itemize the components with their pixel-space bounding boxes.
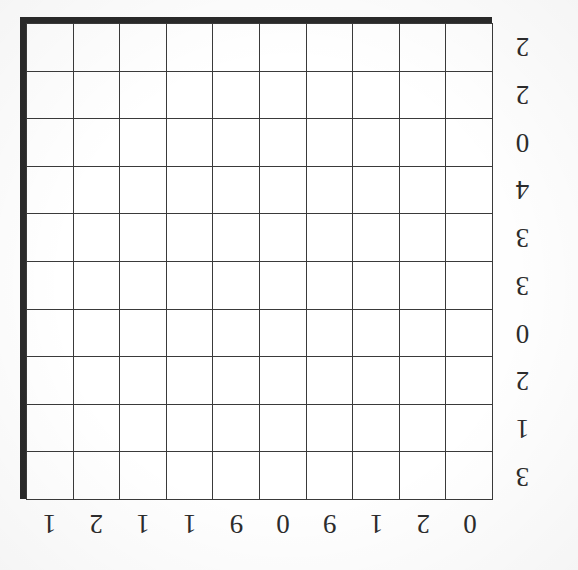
grid-cell-r4-c6[interactable] — [213, 309, 260, 357]
grid-cell-r3-c7[interactable] — [166, 357, 213, 405]
grid-cell-r8-c7[interactable] — [166, 119, 213, 167]
grid-cell-r10-c3[interactable] — [353, 24, 400, 72]
grid-cell-r6-c1[interactable] — [446, 214, 493, 262]
grid-cell-r7-c2[interactable] — [399, 166, 446, 214]
grid-cell-r2-c6[interactable] — [213, 404, 260, 452]
grid-cell-r4-c5[interactable] — [260, 309, 307, 357]
grid-cell-r6-c3[interactable] — [353, 214, 400, 262]
grid-cell-r3-c2[interactable] — [399, 357, 446, 405]
grid-cell-r9-c4[interactable] — [306, 71, 353, 119]
grid-cell-r1-c10[interactable] — [27, 452, 74, 500]
grid-cell-r7-c3[interactable] — [353, 166, 400, 214]
grid-cell-r3-c1[interactable] — [446, 357, 493, 405]
grid-cell-r5-c6[interactable] — [213, 262, 260, 310]
grid-cell-r6-c6[interactable] — [213, 214, 260, 262]
grid-cell-r10-c5[interactable] — [260, 24, 307, 72]
grid-cell-r3-c5[interactable] — [260, 357, 307, 405]
grid-cell-r3-c6[interactable] — [213, 357, 260, 405]
grid-cell-r3-c9[interactable] — [73, 357, 120, 405]
grid-cell-r4-c1[interactable] — [446, 309, 493, 357]
grid-cell-r6-c10[interactable] — [27, 214, 74, 262]
grid-cell-r9-c10[interactable] — [27, 71, 74, 119]
grid-cell-r4-c3[interactable] — [353, 309, 400, 357]
grid-cell-r9-c1[interactable] — [446, 71, 493, 119]
grid-cell-r8-c10[interactable] — [27, 119, 74, 167]
grid-cell-r1-c1[interactable] — [446, 452, 493, 500]
grid-cell-r9-c3[interactable] — [353, 71, 400, 119]
grid-cell-r5-c3[interactable] — [353, 262, 400, 310]
grid-cell-r7-c5[interactable] — [260, 166, 307, 214]
grid-cell-r5-c1[interactable] — [446, 262, 493, 310]
grid-cell-r9-c8[interactable] — [120, 71, 167, 119]
grid-cell-r5-c5[interactable] — [260, 262, 307, 310]
grid-cell-r2-c5[interactable] — [260, 404, 307, 452]
grid-cell-r8-c6[interactable] — [213, 119, 260, 167]
grid-cell-r9-c5[interactable] — [260, 71, 307, 119]
grid-cell-r8-c2[interactable] — [399, 119, 446, 167]
grid-cell-r10-c6[interactable] — [213, 24, 260, 72]
grid-cell-r4-c2[interactable] — [399, 309, 446, 357]
grid-cell-r3-c3[interactable] — [353, 357, 400, 405]
grid-cell-r1-c3[interactable] — [353, 452, 400, 500]
grid-cell-r10-c2[interactable] — [399, 24, 446, 72]
grid-cell-r2-c10[interactable] — [27, 404, 74, 452]
grid-cell-r4-c10[interactable] — [27, 309, 74, 357]
grid-cell-r3-c10[interactable] — [27, 357, 74, 405]
grid-cell-r10-c7[interactable] — [166, 24, 213, 72]
grid-cell-r4-c7[interactable] — [166, 309, 213, 357]
grid-cell-r6-c8[interactable] — [120, 214, 167, 262]
grid-cell-r10-c1[interactable] — [446, 24, 493, 72]
grid-cell-r8-c8[interactable] — [120, 119, 167, 167]
grid-cell-r2-c7[interactable] — [166, 404, 213, 452]
grid-cell-r2-c1[interactable] — [446, 404, 493, 452]
grid-cell-r1-c9[interactable] — [73, 452, 120, 500]
grid-cell-r5-c9[interactable] — [73, 262, 120, 310]
grid-cell-r2-c3[interactable] — [353, 404, 400, 452]
grid-cell-r10-c8[interactable] — [120, 24, 167, 72]
grid-cell-r7-c10[interactable] — [27, 166, 74, 214]
grid-cell-r10-c9[interactable] — [73, 24, 120, 72]
puzzle-grid[interactable] — [26, 23, 493, 500]
grid-cell-r10-c4[interactable] — [306, 24, 353, 72]
grid-cell-r10-c10[interactable] — [27, 24, 74, 72]
grid-cell-r1-c6[interactable] — [213, 452, 260, 500]
grid-cell-r6-c5[interactable] — [260, 214, 307, 262]
grid-cell-r6-c9[interactable] — [73, 214, 120, 262]
grid-cell-r1-c8[interactable] — [120, 452, 167, 500]
grid-cell-r7-c1[interactable] — [446, 166, 493, 214]
grid-cell-r8-c4[interactable] — [306, 119, 353, 167]
grid-cell-r9-c7[interactable] — [166, 71, 213, 119]
grid-cell-r5-c10[interactable] — [27, 262, 74, 310]
grid-cell-r2-c2[interactable] — [399, 404, 446, 452]
grid-cell-r8-c5[interactable] — [260, 119, 307, 167]
grid-cell-r7-c6[interactable] — [213, 166, 260, 214]
grid-cell-r6-c2[interactable] — [399, 214, 446, 262]
grid-cell-r8-c1[interactable] — [446, 119, 493, 167]
grid-cell-r3-c8[interactable] — [120, 357, 167, 405]
grid-cell-r1-c2[interactable] — [399, 452, 446, 500]
grid-cell-r2-c9[interactable] — [73, 404, 120, 452]
grid-cell-r4-c9[interactable] — [73, 309, 120, 357]
grid-cell-r6-c4[interactable] — [306, 214, 353, 262]
grid-cell-r5-c4[interactable] — [306, 262, 353, 310]
grid-cell-r8-c3[interactable] — [353, 119, 400, 167]
grid-cell-r3-c4[interactable] — [306, 357, 353, 405]
grid-cell-r7-c9[interactable] — [73, 166, 120, 214]
grid-cell-r9-c6[interactable] — [213, 71, 260, 119]
grid-cell-r9-c2[interactable] — [399, 71, 446, 119]
grid-cell-r7-c8[interactable] — [120, 166, 167, 214]
grid-cell-r1-c5[interactable] — [260, 452, 307, 500]
grid-cell-r5-c8[interactable] — [120, 262, 167, 310]
grid-cell-r4-c8[interactable] — [120, 309, 167, 357]
grid-cell-r6-c7[interactable] — [166, 214, 213, 262]
grid-cell-r7-c4[interactable] — [306, 166, 353, 214]
grid-cell-r8-c9[interactable] — [73, 119, 120, 167]
grid-cell-r1-c7[interactable] — [166, 452, 213, 500]
grid-cell-r2-c8[interactable] — [120, 404, 167, 452]
grid-cell-r7-c7[interactable] — [166, 166, 213, 214]
grid-cell-r9-c9[interactable] — [73, 71, 120, 119]
grid-cell-r2-c4[interactable] — [306, 404, 353, 452]
grid-cell-r1-c4[interactable] — [306, 452, 353, 500]
grid-cell-r5-c2[interactable] — [399, 262, 446, 310]
grid-cell-r5-c7[interactable] — [166, 262, 213, 310]
